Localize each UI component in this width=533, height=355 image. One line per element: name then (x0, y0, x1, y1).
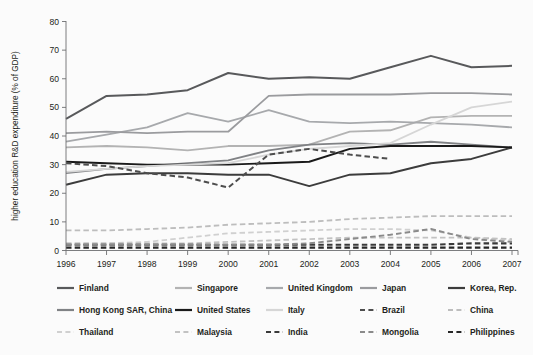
legend-label: Japan (382, 283, 406, 293)
legend-item[interactable]: China (448, 305, 494, 315)
legend-label: Mongolia (382, 327, 419, 337)
legend-label: China (470, 305, 494, 315)
legend-item[interactable]: Hong Kong SAR, China (57, 305, 172, 315)
legend-item[interactable]: Thailand (57, 327, 113, 337)
legend-label: United Kingdom (288, 283, 353, 293)
legend-item[interactable]: Mongolia (360, 327, 419, 337)
y-tick-label: 60 (49, 74, 59, 84)
series-line-malaysia (66, 238, 512, 244)
x-tick-label: 2006 (462, 259, 481, 269)
legend-label: Italy (288, 305, 305, 315)
x-tick-label: 1997 (97, 259, 116, 269)
legend-item[interactable]: India (266, 327, 308, 337)
y-tick-label: 40 (49, 131, 59, 141)
legend-label: Finland (79, 283, 109, 293)
legend-item[interactable]: United States (175, 305, 251, 315)
y-tick-label: 80 (49, 17, 59, 27)
y-tick-label: 50 (49, 102, 59, 112)
legend-item[interactable]: Finland (57, 283, 109, 293)
series-line-finland (66, 56, 512, 119)
legend-label: Philippines (470, 327, 515, 337)
legend-label: Brazil (382, 305, 405, 315)
x-tick-label: 2004 (381, 259, 400, 269)
x-tick-label: 2007 (502, 259, 521, 269)
legend-item[interactable]: Singapore (175, 283, 238, 293)
y-tick-label: 30 (49, 160, 59, 170)
figure-container: 0102030405060708019961997199819992000200… (0, 0, 533, 355)
x-tick-label: 2003 (340, 259, 359, 269)
x-tick-label: 2000 (219, 259, 238, 269)
line-chart: 0102030405060708019961997199819992000200… (0, 0, 533, 355)
y-tick-label: 70 (49, 45, 59, 55)
x-tick-label: 2005 (421, 259, 440, 269)
series-line-japan (66, 93, 512, 133)
legend-row: Hong Kong SAR, ChinaUnited StatesItalyBr… (57, 305, 494, 315)
legend-item[interactable]: Korea, Rep. (448, 283, 517, 293)
legend-label: United States (197, 305, 251, 315)
legend-row: FinlandSingaporeUnited KingdomJapanKorea… (57, 283, 517, 293)
series-line-united-kingdom (66, 110, 512, 141)
y-tick-label: 0 (54, 246, 59, 256)
chart-legend: FinlandSingaporeUnited KingdomJapanKorea… (57, 283, 517, 337)
x-tick-label: 1998 (138, 259, 157, 269)
y-tick-label: 10 (49, 217, 59, 227)
legend-label: Thailand (79, 327, 113, 337)
legend-label: Singapore (197, 283, 238, 293)
legend-row: ThailandMalaysiaIndiaMongoliaPhilippines (57, 327, 515, 337)
legend-item[interactable]: Brazil (360, 305, 405, 315)
plot-area (66, 56, 512, 248)
legend-item[interactable]: United Kingdom (266, 283, 353, 293)
series-line-china (66, 216, 512, 230)
y-axis-label: higher education R&D expenditure (% of G… (11, 51, 20, 221)
legend-label: India (288, 327, 308, 337)
x-tick-label: 2002 (300, 259, 319, 269)
x-tick-label: 1999 (178, 259, 197, 269)
legend-item[interactable]: Philippines (448, 327, 515, 337)
x-tick-label: 1996 (56, 259, 75, 269)
y-tick-label: 20 (49, 188, 59, 198)
x-tick-label: 2001 (259, 259, 278, 269)
legend-label: Korea, Rep. (470, 283, 517, 293)
legend-label: Hong Kong SAR, China (79, 305, 172, 315)
legend-item[interactable]: Malaysia (175, 327, 232, 337)
legend-label: Malaysia (197, 327, 232, 337)
legend-item[interactable]: Japan (360, 283, 406, 293)
legend-item[interactable]: Italy (266, 305, 305, 315)
series-line-thailand (66, 229, 512, 243)
